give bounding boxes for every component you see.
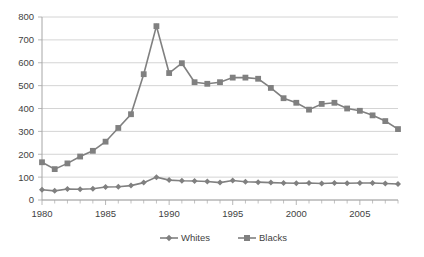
data-point-square — [65, 161, 71, 167]
data-point-square — [141, 71, 147, 77]
data-point-square — [255, 76, 261, 82]
data-point-diamond — [357, 180, 363, 186]
y-tick-label: 100 — [18, 172, 34, 183]
data-point-diamond — [230, 178, 236, 184]
data-point-square — [154, 23, 160, 29]
x-tick-label: 1980 — [31, 208, 52, 219]
data-point-diamond — [192, 178, 198, 184]
data-point-diamond — [103, 184, 109, 190]
data-point-square — [128, 111, 134, 117]
y-tick-label: 700 — [18, 34, 34, 45]
data-point-square — [39, 159, 45, 165]
x-axis-ticks — [42, 200, 398, 205]
data-point-diamond — [217, 180, 223, 186]
line-chart: 0100200300400500600700800 19801985199019… — [0, 0, 424, 257]
data-point-diamond — [204, 178, 210, 184]
data-point-square — [243, 75, 249, 81]
data-point-diamond — [39, 187, 45, 193]
y-tick-label: 300 — [18, 126, 34, 137]
data-point-square — [103, 139, 109, 145]
data-point-diamond — [179, 178, 185, 184]
data-point-diamond — [64, 186, 70, 192]
data-point-diamond — [242, 179, 248, 185]
data-point-diamond — [90, 186, 96, 192]
data-point-square — [192, 79, 198, 85]
data-point-square — [306, 107, 312, 113]
y-tick-label: 200 — [18, 149, 34, 160]
data-point-diamond — [141, 180, 147, 186]
data-point-diamond — [128, 183, 134, 189]
chart-canvas: 0100200300400500600700800 19801985199019… — [0, 0, 424, 257]
data-point-square — [319, 101, 325, 107]
y-tick-label: 0 — [29, 194, 34, 205]
y-tick-label: 400 — [18, 103, 34, 114]
data-point-diamond — [255, 179, 261, 185]
data-point-square — [281, 95, 287, 101]
data-point-diamond — [344, 180, 350, 186]
x-tick-label: 2000 — [286, 208, 307, 219]
data-point-diamond — [115, 184, 121, 190]
y-tick-label: 500 — [18, 80, 34, 91]
y-axis-ticks — [38, 17, 42, 200]
chart-legend: WhitesBlacks — [160, 232, 287, 243]
data-point-square — [370, 112, 376, 118]
data-point-square — [230, 75, 236, 81]
data-point-diamond — [319, 181, 325, 187]
data-point-diamond — [293, 180, 299, 186]
data-point-square — [217, 79, 223, 85]
x-tick-label: 1985 — [95, 208, 116, 219]
data-point-diamond — [166, 235, 172, 241]
data-point-diamond — [331, 180, 337, 186]
data-point-diamond — [52, 188, 58, 194]
data-point-square — [382, 118, 388, 124]
series-line — [42, 26, 398, 169]
data-point-diamond — [77, 186, 83, 192]
legend-label: Whites — [181, 232, 210, 243]
data-point-square — [115, 125, 121, 131]
data-point-diamond — [153, 174, 159, 180]
data-point-square — [204, 81, 210, 87]
x-tick-label: 1995 — [222, 208, 243, 219]
x-axis-labels: 198019851990199520002005 — [31, 208, 370, 219]
data-point-diamond — [395, 181, 401, 187]
y-axis-labels: 0100200300400500600700800 — [18, 11, 34, 205]
data-point-square — [52, 166, 58, 172]
legend-label: Blacks — [259, 232, 287, 243]
data-point-square — [179, 60, 185, 66]
x-tick-label: 1990 — [159, 208, 180, 219]
data-point-square — [166, 70, 172, 76]
x-tick-label: 2005 — [349, 208, 370, 219]
data-point-square — [293, 100, 299, 106]
data-point-square — [357, 108, 363, 114]
y-tick-label: 600 — [18, 57, 34, 68]
data-point-diamond — [268, 180, 274, 186]
data-point-diamond — [306, 180, 312, 186]
data-point-square — [395, 126, 401, 132]
series-blacks — [39, 23, 401, 172]
data-point-square — [77, 154, 83, 160]
data-point-square — [268, 85, 274, 91]
data-point-diamond — [166, 177, 172, 183]
y-tick-label: 800 — [18, 11, 34, 22]
data-point-square — [244, 235, 250, 241]
data-point-diamond — [382, 181, 388, 187]
data-point-square — [90, 148, 96, 154]
data-point-diamond — [281, 180, 287, 186]
data-point-square — [332, 100, 338, 106]
data-point-square — [344, 106, 350, 112]
data-point-diamond — [370, 180, 376, 186]
